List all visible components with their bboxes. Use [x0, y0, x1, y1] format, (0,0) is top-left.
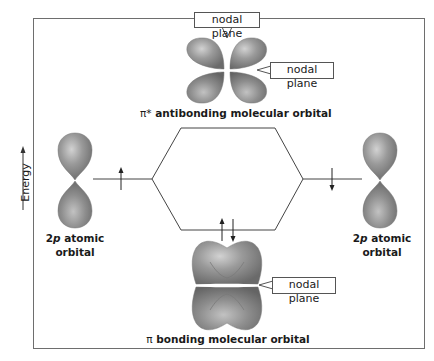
nodal-plane-callout-bonding: nodal plane [272, 277, 336, 294]
orbital-type-text: atomic [368, 232, 412, 244]
antibonding-caption: π* antibonding molecular orbital [140, 107, 320, 119]
orbital-type-text: atomic [61, 232, 105, 244]
left-atomic-orbital-label: 2p atomic orbital [40, 231, 110, 259]
orbital-subshell: p [53, 232, 61, 244]
energy-axis-label: Energy [19, 160, 32, 206]
right-2p-orbital-icon [363, 133, 397, 228]
pi-symbol: π [146, 333, 152, 345]
pi-star-symbol: π* [140, 107, 152, 119]
antibonding-caption-text: antibonding molecular orbital [155, 107, 331, 119]
bonding-orbital-icon [192, 241, 262, 330]
mo-diagram-graphic [0, 0, 434, 361]
nodal-plane-callout-top: nodal plane [194, 12, 260, 28]
correlation-lines [93, 128, 362, 230]
right-atomic-orbital-label: 2p atomic orbital [347, 231, 417, 259]
left-2p-orbital-icon [58, 133, 92, 228]
orbital-shell-number: 2 [46, 232, 53, 244]
bonding-caption: π bonding molecular orbital [140, 333, 316, 345]
bonding-caption-text: bonding molecular orbital [156, 333, 309, 345]
antibonding-orbital-icon [187, 38, 267, 103]
orbital-word: orbital [40, 245, 110, 259]
nodal-plane-callout-antibonding: nodal plane [270, 62, 334, 79]
orbital-subshell: p [360, 232, 368, 244]
orbital-word: orbital [347, 245, 417, 259]
orbital-shell-number: 2 [353, 232, 360, 244]
